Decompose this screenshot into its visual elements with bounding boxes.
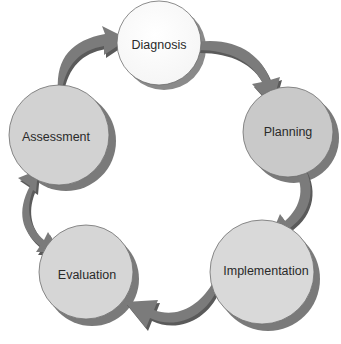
diagnosis-label: Diagnosis xyxy=(132,38,187,52)
node-implementation: Implementation xyxy=(210,220,314,324)
node-evaluation: Evaluation xyxy=(39,225,133,319)
planning-label: Planning xyxy=(264,125,313,139)
node-assessment: Assessment xyxy=(9,85,109,185)
evaluation-label: Evaluation xyxy=(58,268,116,282)
node-planning: Planning xyxy=(243,87,333,177)
arrow-implementation-to-evaluation xyxy=(125,284,220,331)
node-diagnosis: Diagnosis xyxy=(117,1,201,85)
nursing-process-cycle-diagram: Diagnosis Planning Implementation Evalua… xyxy=(0,0,341,344)
implementation-label: Implementation xyxy=(223,264,309,278)
assessment-label: Assessment xyxy=(22,130,91,144)
